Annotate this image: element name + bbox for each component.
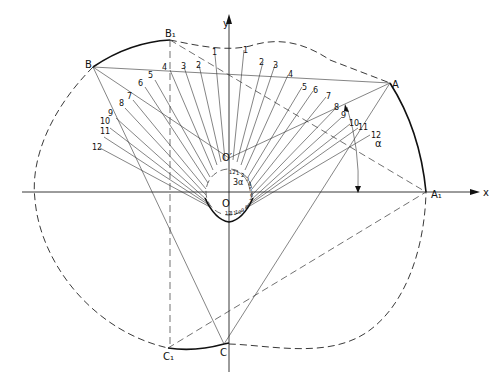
svg-text:7: 7 bbox=[127, 92, 132, 101]
svg-text:6: 6 bbox=[313, 86, 318, 95]
svg-text:12: 12 bbox=[92, 143, 102, 152]
label-b: B bbox=[85, 59, 92, 70]
svg-text:11: 11 bbox=[358, 123, 368, 132]
svg-text:3: 3 bbox=[181, 62, 186, 71]
dashed-outer-contour bbox=[34, 40, 426, 349]
svg-text:9: 9 bbox=[241, 207, 244, 213]
svg-text:9: 9 bbox=[341, 111, 346, 120]
svg-text:12: 12 bbox=[229, 169, 235, 175]
label-b1: B₁ bbox=[165, 28, 176, 39]
svg-text:10: 10 bbox=[100, 117, 110, 126]
svg-text:2: 2 bbox=[259, 58, 264, 67]
arc-a-a1 bbox=[390, 83, 426, 192]
svg-text:1: 1 bbox=[236, 170, 239, 176]
svg-text:12: 12 bbox=[225, 210, 231, 216]
dashed-b1-a1 bbox=[170, 40, 426, 192]
arc-b-b1 bbox=[93, 40, 170, 67]
x-axis-arrow-icon bbox=[470, 189, 480, 195]
geometric-construction-diagram: y x O′ O A A₁ B B₁ C C₁ α 3α 1 2 3 4 5 6… bbox=[0, 0, 495, 374]
label-a: A bbox=[392, 79, 399, 90]
right-ray-fan bbox=[233, 50, 370, 207]
label-o-prime: O′ bbox=[222, 152, 233, 163]
x-axis-label: x bbox=[483, 187, 489, 198]
svg-text:4: 4 bbox=[162, 63, 167, 72]
svg-text:4: 4 bbox=[288, 70, 293, 79]
svg-text:3: 3 bbox=[273, 61, 278, 70]
left-ray-fan bbox=[100, 55, 225, 207]
label-c: C bbox=[220, 347, 227, 358]
label-three-alpha: 3α bbox=[233, 178, 243, 187]
svg-text:7: 7 bbox=[326, 92, 331, 101]
right-ray-labels: 1 2 3 4 5 6 7 8 9 10 11 12 bbox=[243, 46, 381, 140]
svg-text:8: 8 bbox=[245, 204, 248, 210]
svg-text:1: 1 bbox=[243, 46, 248, 55]
label-a1: A₁ bbox=[431, 189, 442, 200]
svg-text:7: 7 bbox=[249, 198, 252, 204]
line-b-oprime bbox=[93, 67, 229, 158]
svg-text:5: 5 bbox=[302, 83, 307, 92]
svg-text:1: 1 bbox=[212, 48, 217, 57]
svg-text:8: 8 bbox=[334, 103, 339, 112]
svg-text:11: 11 bbox=[100, 127, 110, 136]
svg-text:2: 2 bbox=[241, 172, 244, 178]
y-axis-label: y bbox=[223, 18, 229, 29]
svg-text:6: 6 bbox=[138, 79, 143, 88]
svg-text:8: 8 bbox=[119, 99, 124, 108]
svg-text:5: 5 bbox=[148, 71, 153, 80]
svg-text:2: 2 bbox=[196, 61, 201, 70]
svg-text:12: 12 bbox=[371, 131, 381, 140]
dashed-c1-a1 bbox=[168, 192, 426, 348]
label-o: O bbox=[222, 198, 230, 209]
label-c1: C₁ bbox=[163, 351, 174, 362]
